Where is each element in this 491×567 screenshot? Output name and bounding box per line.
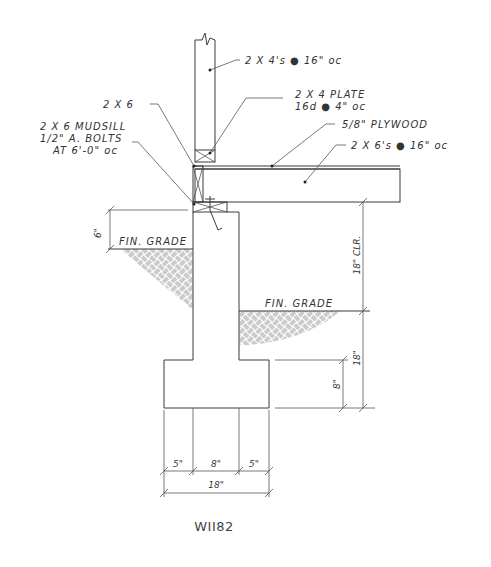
note-plate-text-1: 2 X 4 PLATE: [295, 89, 365, 100]
note-rim-text: 2 X 6: [103, 99, 134, 110]
note-mudsill: 2 X 6 MUDSILL 1/2" A. BOLTS AT 6'-0" oc: [40, 121, 196, 206]
stem-wall: [193, 212, 239, 360]
note-plywood-text: 5/8" PLYWOOD: [342, 119, 428, 130]
dim-right-projection-label: 5": [249, 459, 259, 469]
note-mudsill-text-1: 2 X 6 MUDSILL: [40, 121, 126, 132]
footing: [164, 360, 269, 408]
earth-hatch-left: [108, 249, 193, 310]
note-mudsill-text-3: AT 6'-0" oc: [52, 145, 118, 156]
grade-label-left: FIN. GRADE: [119, 236, 187, 247]
top-plate: [195, 150, 215, 162]
foundation-section-drawing: 6" 18" CLR. 18" 8" 5" 8" 5" 18" FIN. GRA…: [0, 0, 491, 567]
drawing-id-label: WII82: [194, 519, 234, 534]
dim-clearance: 18" CLR. 18": [352, 198, 367, 412]
note-joists-text: 2 X 6's ● 16" oc: [351, 140, 448, 151]
note-joists: 2 X 6's ● 16" oc: [304, 140, 449, 184]
dim-clearance-label: 18" CLR.: [352, 236, 362, 275]
note-studs-text: 2 X 4's ● 16" oc: [245, 55, 342, 66]
dim-footing-width-label: 18": [208, 480, 224, 490]
grade-label-right: FIN. GRADE: [265, 298, 333, 309]
earth-hatch-right: [239, 311, 370, 345]
note-mudsill-text-2: 1/2" A. BOLTS: [40, 133, 122, 144]
dim-above-grade-label: 6": [93, 228, 103, 238]
dim-footing-thickness-label: 8": [332, 379, 342, 389]
dim-footing-breakdown: 5" 8" 5" 18": [160, 459, 273, 497]
dim-stem-width-label: 8": [211, 459, 221, 469]
stud-wall: [195, 33, 215, 150]
note-studs: 2 X 4's ● 16" oc: [209, 55, 343, 72]
dim-left-projection-label: 5": [173, 459, 183, 469]
floor-joist: [195, 169, 400, 202]
note-plate-text-2: 16d ● 4" oc: [295, 101, 366, 112]
dim-depth-label: 18": [352, 350, 362, 366]
anchor-bolt: [205, 196, 222, 230]
